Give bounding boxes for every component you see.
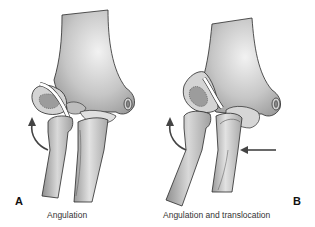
panel-a-illustration	[28, 10, 135, 202]
elbow-fracture-figure: A Angulation Angulation and translocatio…	[0, 0, 315, 227]
panel-label-a: A	[15, 195, 23, 207]
ulna-b	[212, 113, 242, 192]
ulna-a	[74, 118, 108, 202]
panel-label-b: B	[293, 195, 301, 207]
panel-b-illustration	[166, 18, 281, 206]
rotation-arrow-a	[32, 124, 48, 150]
illustration	[0, 0, 315, 227]
panel-caption-a: Angulation	[47, 210, 87, 220]
panel-caption-b: Angulation and translocation	[163, 210, 270, 220]
radius-a	[42, 116, 73, 198]
rotation-arrow-b	[170, 124, 186, 150]
